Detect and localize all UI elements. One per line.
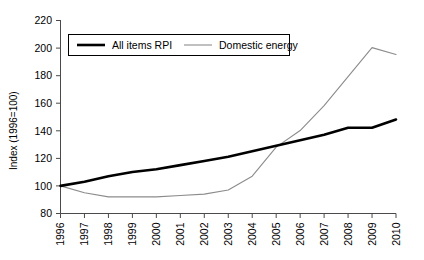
y-tick-label: 80 (40, 207, 52, 219)
legend-label-all-items-rpi: All items RPI (112, 39, 172, 51)
legend-label-domestic-energy: Domestic energy (219, 39, 299, 51)
y-tick-label: 200 (34, 42, 52, 54)
y-tick-label: 100 (34, 180, 52, 192)
x-tick-labels: 1996199719981999200020012002200320042005… (54, 222, 402, 246)
x-tick-label: 1998 (102, 222, 114, 246)
x-tick-marks (61, 214, 397, 219)
x-tick-label: 1999 (126, 222, 138, 246)
y-tick-marks (56, 21, 61, 214)
x-tick-label: 2009 (366, 222, 378, 246)
x-tick-label: 2001 (174, 222, 186, 246)
x-tick-label: 2004 (246, 222, 258, 246)
x-tick-label: 2007 (318, 222, 330, 246)
y-tick-label: 220 (34, 14, 52, 26)
y-tick-label: 120 (34, 152, 52, 164)
y-tick-label: 140 (34, 125, 52, 137)
x-tick-label: 2000 (150, 222, 162, 246)
line-chart: 80 100 120 140 160 180 200 220 Index (19… (0, 0, 424, 260)
y-axis-title: Index (1996=100) (8, 91, 19, 170)
x-tick-label: 2006 (294, 222, 306, 246)
x-tick-label: 2005 (270, 222, 282, 246)
chart-container: 80 100 120 140 160 180 200 220 Index (19… (0, 0, 424, 260)
y-tick-labels: 80 100 120 140 160 180 200 220 (34, 14, 52, 219)
x-tick-label: 2003 (222, 222, 234, 246)
x-tick-label: 1997 (78, 222, 90, 246)
series-line-all-items-rpi (61, 120, 397, 186)
x-tick-label: 2010 (390, 222, 402, 246)
x-tick-label: 2008 (342, 222, 354, 246)
x-tick-label: 2002 (198, 222, 210, 246)
y-tick-label: 160 (34, 97, 52, 109)
chart-legend: All items RPI Domestic energy (69, 35, 299, 56)
x-tick-label: 1996 (54, 222, 66, 246)
y-tick-label: 180 (34, 69, 52, 81)
